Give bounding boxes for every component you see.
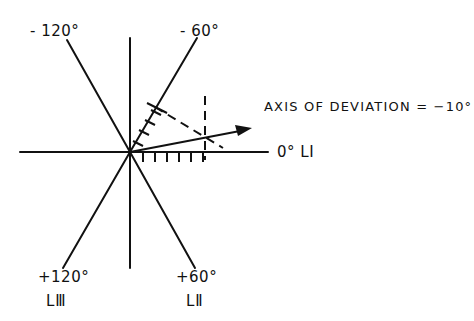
- plus-120-axis: [63, 152, 130, 268]
- lead-i-ticks: [143, 152, 203, 162]
- plus-60-axis: [130, 152, 195, 268]
- label-minus-120: - 120°: [30, 22, 79, 40]
- label-zero-lead-i: 0° LⅠ: [277, 143, 314, 161]
- label-axis-of-deviation: AXIS OF DEVIATION = −10°: [264, 99, 472, 114]
- label-lead-ii: LⅡ: [186, 292, 204, 310]
- hexaxial-diagram: - 120° - 60° +120° +60° LⅢ LⅡ 0° LⅠ AXIS…: [0, 0, 474, 321]
- deviation-arrow: [130, 125, 252, 152]
- label-minus-60: - 60°: [180, 22, 219, 40]
- label-plus-60: +60°: [176, 268, 217, 286]
- label-lead-iii: LⅢ: [46, 292, 67, 310]
- minus-120-axis: [67, 40, 130, 152]
- label-plus-120: +120°: [38, 268, 89, 286]
- minus-60-axis: [130, 38, 197, 152]
- arrowhead-icon: [235, 125, 252, 136]
